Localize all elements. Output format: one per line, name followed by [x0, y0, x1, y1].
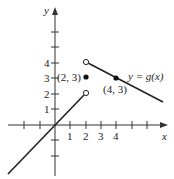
x-tick-label-3: 3	[98, 130, 104, 142]
y-tick-label-2: 2	[44, 88, 50, 100]
open-circle-2-2	[83, 90, 88, 95]
filled-point-2-3	[83, 74, 88, 79]
x-tick-label-1: 1	[67, 130, 73, 142]
x-axis-label: x	[161, 130, 167, 142]
graph-svg: 1 2 3 4 1 2 3 4 x y (2, 3) (4, 3) y = g(…	[0, 0, 174, 179]
x-axis-arrow-icon	[160, 122, 168, 128]
y-tick-label-1: 1	[44, 103, 50, 115]
open-circle-2-4	[83, 59, 88, 64]
filled-point-4-3	[113, 75, 118, 80]
y-axis-arrow-icon	[52, 7, 58, 15]
y-axis-label: y	[43, 4, 49, 16]
point-label-2-3: (2, 3)	[57, 71, 81, 84]
function-label: y = g(x)	[127, 70, 164, 83]
x-tick-label-4: 4	[113, 130, 119, 142]
graph-figure: 1 2 3 4 1 2 3 4 x y (2, 3) (4, 3) y = g(…	[0, 0, 174, 179]
y-tick-label-4: 4	[44, 57, 50, 69]
point-label-4-3: (4, 3)	[103, 83, 127, 96]
y-tick-label-3: 3	[44, 72, 50, 84]
x-tick-label-2: 2	[83, 130, 89, 142]
